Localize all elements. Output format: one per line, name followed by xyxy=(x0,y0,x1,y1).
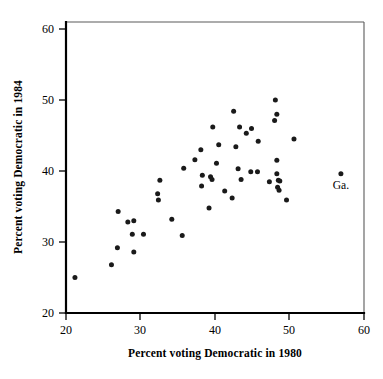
data-point xyxy=(249,126,254,131)
data-point xyxy=(130,232,135,237)
data-point xyxy=(210,177,215,182)
data-point xyxy=(216,142,221,147)
data-point xyxy=(141,232,146,237)
y-tick-label-30: 30 xyxy=(42,235,54,249)
data-point xyxy=(155,191,160,196)
y-tick-label-40: 40 xyxy=(42,164,54,178)
data-point xyxy=(272,118,277,123)
data-point xyxy=(233,144,238,149)
data-point xyxy=(231,109,236,114)
data-point xyxy=(284,198,289,203)
x-tick-label-20: 20 xyxy=(60,323,72,337)
data-point xyxy=(273,98,278,103)
data-point xyxy=(239,177,244,182)
data-point xyxy=(157,178,162,183)
data-point xyxy=(109,262,114,267)
data-point xyxy=(200,173,205,178)
data-point xyxy=(72,275,77,280)
data-point xyxy=(116,209,121,214)
data-point xyxy=(236,166,241,171)
data-point xyxy=(199,183,204,188)
data-points-layer xyxy=(72,98,343,281)
data-point xyxy=(248,169,253,174)
annotations-layer: Ga. xyxy=(333,179,349,191)
scatter-plot-figure: 60 50 40 30 20 20 30 40 50 60 Percent vo… xyxy=(0,0,383,379)
y-tick-label-50: 50 xyxy=(42,93,54,107)
data-point xyxy=(156,198,161,203)
y-axis-title: Percent voting Democratic in 1984 xyxy=(12,80,25,254)
data-point xyxy=(131,249,136,254)
x-axis-tick-labels: 20 30 40 50 60 xyxy=(60,323,370,337)
data-point xyxy=(210,124,215,129)
data-point xyxy=(277,188,282,193)
data-point xyxy=(198,147,203,152)
data-point xyxy=(131,218,136,223)
plot-frame xyxy=(66,22,364,313)
x-tick-label-50: 50 xyxy=(283,323,295,337)
data-point xyxy=(237,124,242,129)
y-tick-label-20: 20 xyxy=(42,306,54,320)
data-point xyxy=(230,195,235,200)
data-point xyxy=(274,112,279,117)
y-axis-tick-labels: 60 50 40 30 20 xyxy=(42,22,54,320)
x-tick-label-60: 60 xyxy=(358,323,370,337)
data-point xyxy=(115,245,120,250)
data-point xyxy=(214,161,219,166)
data-point xyxy=(277,178,282,183)
data-point xyxy=(181,166,186,171)
data-point xyxy=(274,158,279,163)
point-annotation-label: Ga. xyxy=(333,179,349,191)
data-point xyxy=(274,171,279,176)
x-axis-title: Percent voting Democratic in 1980 xyxy=(128,347,302,360)
data-point xyxy=(256,139,261,144)
x-tick-label-30: 30 xyxy=(134,323,146,337)
data-point xyxy=(169,217,174,222)
data-point xyxy=(291,137,296,142)
data-point xyxy=(192,157,197,162)
x-tick-label-40: 40 xyxy=(209,323,221,337)
data-point xyxy=(255,169,260,174)
data-point xyxy=(338,171,343,176)
data-point xyxy=(180,233,185,238)
data-point xyxy=(222,188,227,193)
data-point xyxy=(267,179,272,184)
data-point xyxy=(125,220,130,225)
data-point xyxy=(244,131,249,136)
data-point xyxy=(207,205,212,210)
y-tick-label-60: 60 xyxy=(42,22,54,36)
